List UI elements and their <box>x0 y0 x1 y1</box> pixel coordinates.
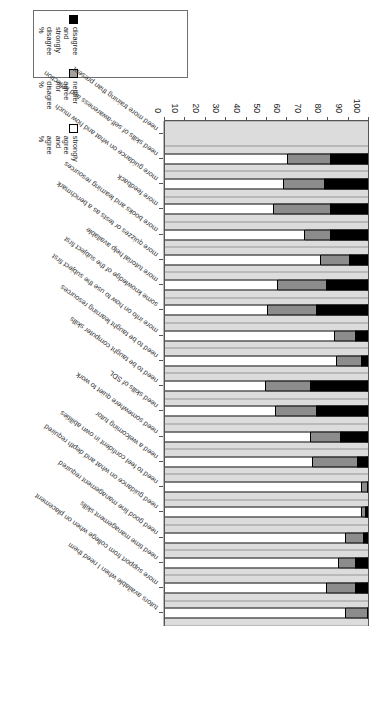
category-tick <box>159 587 163 588</box>
category-tick <box>159 461 163 462</box>
bar-row[interactable] <box>164 449 368 474</box>
stacked-bar[interactable] <box>164 482 368 493</box>
stacked-bar[interactable] <box>164 431 368 442</box>
stacked-bar[interactable] <box>164 381 368 392</box>
bar-row[interactable] <box>164 222 368 247</box>
stacked-bar[interactable] <box>164 153 368 164</box>
bar-row[interactable] <box>164 576 368 601</box>
stacked-bar[interactable] <box>164 608 368 619</box>
segment-strongly-agree-and-agree <box>164 583 327 594</box>
category-tick <box>159 158 163 159</box>
x-tick-label: 60 <box>278 103 288 113</box>
category-tick <box>159 360 163 361</box>
bar-row[interactable] <box>164 374 368 399</box>
segment-strongly-agree-and-agree <box>164 280 278 291</box>
bar-row[interactable] <box>164 399 368 424</box>
segment-strongly-agree-and-agree <box>164 532 346 543</box>
bar-row[interactable] <box>164 424 368 449</box>
bar-row[interactable] <box>164 273 368 298</box>
segment-neither-agree-nor-disagree <box>346 532 364 543</box>
segment-disagree-and-strongly-disagree <box>350 254 368 265</box>
segment-disagree-and-strongly-disagree <box>331 153 368 164</box>
segment-strongly-agree-and-agree <box>164 204 274 215</box>
segment-strongly-agree-and-agree <box>164 431 311 442</box>
segment-strongly-agree-and-agree <box>164 381 266 392</box>
bar-row[interactable] <box>164 500 368 525</box>
segment-disagree-and-strongly-disagree <box>356 557 368 568</box>
stacked-bar[interactable] <box>164 330 368 341</box>
segment-strongly-agree-and-agree <box>164 355 337 366</box>
segment-strongly-agree-and-agree <box>164 482 362 493</box>
category-label: need a welcoming tutor <box>93 409 159 461</box>
x-tick <box>205 117 206 121</box>
segment-disagree-and-strongly-disagree <box>317 305 368 316</box>
x-tick <box>348 117 349 121</box>
bar-row[interactable] <box>164 197 368 222</box>
stacked-bar[interactable] <box>164 406 368 417</box>
bar-row[interactable] <box>164 121 368 146</box>
bar-row[interactable] <box>164 525 368 550</box>
x-tick-label: 90 <box>339 103 349 113</box>
stacked-bar[interactable] <box>164 229 368 240</box>
x-tick <box>225 117 226 121</box>
legend-label: disagree and strongly disagree % <box>36 27 79 55</box>
segment-strongly-agree-and-agree <box>164 153 288 164</box>
segment-neither-agree-nor-disagree <box>362 482 368 493</box>
segment-neither-agree-nor-disagree <box>284 179 325 190</box>
segment-strongly-agree-and-agree <box>164 608 346 619</box>
stacked-bar[interactable] <box>164 355 368 366</box>
x-tick-label: 20 <box>196 103 206 113</box>
stacked-bar[interactable] <box>164 254 368 265</box>
segment-neither-agree-nor-disagree <box>274 204 331 215</box>
category-tick <box>159 385 163 386</box>
segment-neither-agree-nor-disagree <box>321 254 350 265</box>
stacked-bar[interactable] <box>164 456 368 467</box>
stacked-bar[interactable] <box>164 557 368 568</box>
x-tick-label: 10 <box>176 103 186 113</box>
stacked-bar[interactable] <box>164 128 368 139</box>
legend-entry[interactable]: disagree and strongly disagree % <box>36 15 79 55</box>
segment-strongly-agree-and-agree <box>164 406 276 417</box>
chart-figure-rotator: disagree and strongly disagree %neither … <box>0 0 377 714</box>
segment-neither-agree-nor-disagree <box>311 431 342 442</box>
bar-row[interactable] <box>164 247 368 272</box>
x-tick <box>184 117 185 121</box>
segment-neither-agree-nor-disagree <box>278 280 327 291</box>
stacked-bar[interactable] <box>164 204 368 215</box>
x-tick <box>286 117 287 121</box>
bar-rows <box>164 121 368 626</box>
category-labels: tutors available when I need themmore su… <box>0 66 163 626</box>
segment-strongly-agree-and-agree <box>164 305 268 316</box>
stacked-bar[interactable] <box>164 179 368 190</box>
segment-disagree-and-strongly-disagree <box>317 406 368 417</box>
segment-neither-agree-nor-disagree <box>288 153 331 164</box>
stacked-bar[interactable] <box>164 280 368 291</box>
category-label: more support from college when on placem… <box>33 492 160 587</box>
bar-row[interactable] <box>164 348 368 373</box>
segment-neither-agree-nor-disagree <box>335 330 355 341</box>
bar-row[interactable] <box>164 323 368 348</box>
bar-row[interactable] <box>164 475 368 500</box>
segment-strongly-agree-and-agree <box>164 254 321 265</box>
category-tick <box>159 335 163 336</box>
bar-row[interactable] <box>164 146 368 171</box>
segment-strongly-agree-and-agree <box>164 507 362 518</box>
x-tick-label: 40 <box>237 103 247 113</box>
x-tick-label: 70 <box>298 103 308 113</box>
bar-row[interactable] <box>164 298 368 323</box>
stacked-bar[interactable] <box>164 305 368 316</box>
segment-neither-agree-nor-disagree <box>268 305 317 316</box>
segment-neither-agree-nor-disagree <box>276 406 317 417</box>
bar-row[interactable] <box>164 172 368 197</box>
stacked-bar[interactable] <box>164 507 368 518</box>
bar-row[interactable] <box>164 601 368 626</box>
stacked-bar[interactable] <box>164 532 368 543</box>
bar-row[interactable] <box>164 550 368 575</box>
segment-disagree-and-strongly-disagree <box>366 507 368 518</box>
segment-neither-agree-nor-disagree <box>339 557 355 568</box>
segment-disagree-and-strongly-disagree <box>364 532 368 543</box>
x-tick <box>307 117 308 121</box>
segment-disagree-and-strongly-disagree <box>331 229 368 240</box>
x-tick-label: 50 <box>257 103 267 113</box>
stacked-bar[interactable] <box>164 583 368 594</box>
